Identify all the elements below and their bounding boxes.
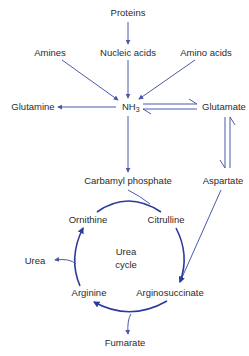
urea-cycle-label-2: cycle: [115, 259, 137, 270]
arrow-aspartate-glutamate: [230, 117, 235, 168]
node-glutamate: Glutamate: [202, 101, 246, 112]
node-urea: Urea: [25, 255, 46, 266]
node-citrulline: Citrulline: [148, 214, 185, 225]
arrow-nh3-glutamate: [143, 99, 197, 104]
node-amino-acids: Amino acids: [180, 47, 232, 58]
arrow-argininosuccinate-fumarate: [128, 314, 131, 334]
node-ornithine: Ornithine: [69, 214, 108, 225]
node-argininosuccinate: Arginosuccinate: [136, 287, 204, 298]
node-carbamyl-phosphate: Carbamyl phosphate: [84, 175, 172, 186]
node-glutamine: Glutamine: [11, 101, 54, 112]
node-fumarate: Fumarate: [105, 337, 146, 348]
cycle-arginine-ornithine: [75, 228, 83, 286]
urea-cycle-label-1: Urea: [116, 246, 137, 257]
cycle-ornithine-citrulline: [97, 201, 161, 212]
node-nucleic-acids: Nucleic acids: [100, 47, 156, 58]
urea-cycle-diagram: Proteins Amines Nucleic acids Amino acid…: [0, 0, 249, 356]
arrow-aspartate-argininosuccinate: [180, 190, 221, 282]
nh3-main: NH: [122, 101, 136, 112]
node-arginine: Arginine: [72, 287, 107, 298]
node-amines: Amines: [34, 47, 66, 58]
nh3-subscript: 3: [136, 106, 140, 113]
arrow-glutamate-aspartate: [220, 117, 225, 168]
cycle-citrulline-argininosuccinate: [176, 228, 184, 282]
arrow-arginine-urea: [55, 260, 76, 265]
node-proteins: Proteins: [111, 7, 146, 18]
arrow-glutamate-nh3: [143, 109, 197, 114]
cycle-argininosuccinate-arginine: [94, 301, 167, 312]
node-aspartate: Aspartate: [203, 175, 244, 186]
node-nh3: NH3: [122, 101, 140, 113]
arrow-amines-nh3: [62, 60, 118, 100]
arrow-amino-nh3: [139, 60, 195, 99]
